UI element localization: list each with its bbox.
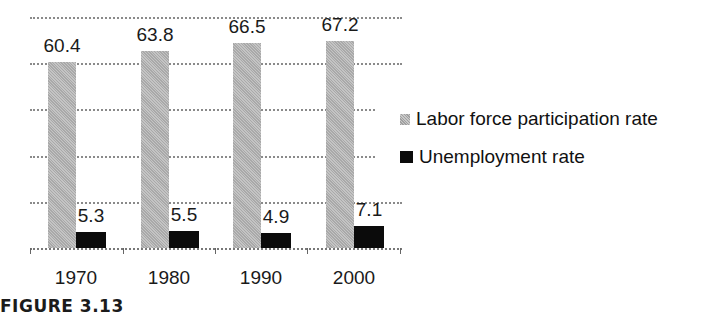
legend: Labor force participation rate Unemploym…: [400, 100, 658, 176]
x-axis-tick: [30, 248, 31, 254]
data-label-labor-force: 67.2: [310, 14, 370, 36]
legend-label: Unemployment rate: [419, 146, 585, 168]
bar-unemployment-1970: [76, 232, 106, 248]
x-axis-label: 1980: [139, 267, 199, 289]
bar-unemployment-1990: [261, 233, 291, 248]
gridline: [30, 156, 375, 158]
x-axis-tick: [400, 248, 401, 254]
x-axis: [30, 248, 402, 250]
legend-item-unemployment: Unemployment rate: [400, 138, 658, 176]
data-label-unemployment: 5.5: [154, 204, 214, 226]
legend-swatch-unemployment-icon: [400, 151, 413, 163]
data-label-labor-force: 60.4: [32, 35, 92, 57]
data-label-unemployment: 7.1: [339, 199, 399, 221]
bar-unemployment-1980: [169, 231, 199, 248]
bar-chart: 60.45.3197063.85.5198066.54.9199067.27.1…: [0, 0, 708, 321]
data-label-labor-force: 63.8: [125, 24, 185, 46]
x-axis-tick: [123, 248, 124, 254]
x-axis-tick: [215, 248, 216, 254]
data-label-unemployment: 5.3: [61, 205, 121, 227]
data-label-labor-force: 66.5: [217, 16, 277, 38]
legend-label: Labor force participation rate: [416, 108, 658, 130]
bar-unemployment-2000: [354, 226, 384, 248]
x-axis-label: 1990: [231, 267, 291, 289]
x-axis-tick: [307, 248, 308, 254]
legend-swatch-labor-icon: [400, 114, 410, 125]
gridline: [30, 109, 375, 111]
x-axis-label: 2000: [324, 267, 384, 289]
figure-caption: FIGURE 3.13: [0, 296, 124, 316]
x-axis-label: 1970: [46, 267, 106, 289]
legend-item-labor-force: Labor force participation rate: [400, 100, 658, 138]
data-label-unemployment: 4.9: [246, 206, 306, 228]
